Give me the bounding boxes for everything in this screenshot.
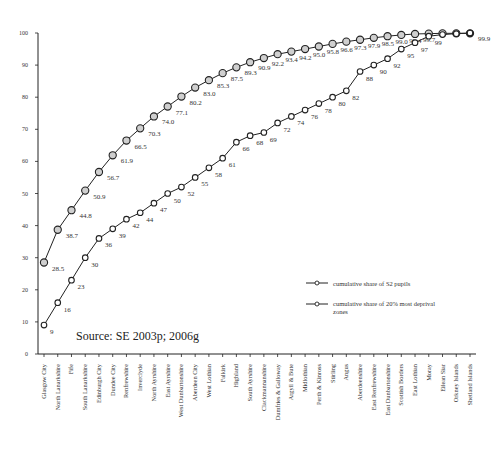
data-point-marker-icon <box>82 255 88 261</box>
x-category-label: Midlothian <box>301 363 308 392</box>
data-label: 68 <box>256 139 264 147</box>
data-label: 96.6 <box>341 46 354 54</box>
data-point-marker-icon <box>315 43 322 50</box>
data-point-marker-icon <box>109 152 116 159</box>
data-label: 56.7 <box>107 174 120 182</box>
data-point-marker-icon <box>123 137 130 144</box>
x-category-label: Renfrewshire <box>122 364 129 398</box>
data-point-marker-icon <box>178 93 185 100</box>
axes: 0102030405060708090100Glasgow CityNorth … <box>19 30 476 420</box>
data-point-marker-icon <box>41 322 47 328</box>
data-point-marker-icon <box>164 103 171 110</box>
legend-marker-icon <box>315 281 319 285</box>
x-category-label: Shetland Islands <box>466 363 473 405</box>
data-label: 72 <box>284 126 292 134</box>
data-label: 74 <box>297 119 305 127</box>
data-point-marker-icon <box>54 226 61 233</box>
data-point-marker-icon <box>440 32 446 38</box>
data-label: 58 <box>215 171 223 179</box>
data-label: 90.9 <box>258 64 271 72</box>
x-category-label: Aberdeen City <box>191 363 198 401</box>
data-point-marker-icon <box>357 69 363 75</box>
y-tick-label: 60 <box>22 158 28 164</box>
legend-label-deprived: cumulative share of 20% most deprival <box>333 300 435 307</box>
data-label: 66 <box>242 145 250 153</box>
legend-label-s2: cumulative share of S2 pupils <box>333 280 411 287</box>
data-label: 50.9 <box>93 193 106 201</box>
y-tick-label: 90 <box>22 62 28 68</box>
data-point-marker-icon <box>192 84 199 91</box>
data-label: 83.0 <box>203 90 216 98</box>
data-point-marker-icon <box>234 139 240 145</box>
legend-marker-icon <box>315 302 319 306</box>
data-point-marker-icon <box>288 48 295 55</box>
data-point-marker-icon <box>95 168 102 175</box>
x-category-label: Inverclyde <box>136 364 143 391</box>
data-point-marker-icon <box>220 155 226 161</box>
data-label: 69 <box>270 136 278 144</box>
data-label: 92 <box>394 62 402 70</box>
data-point-marker-icon <box>110 226 116 232</box>
data-label: 85.3 <box>217 82 230 90</box>
data-label: 94.2 <box>299 54 312 62</box>
data-point-marker-icon <box>275 120 281 126</box>
x-category-label: Perth & Kinross <box>315 363 322 404</box>
data-point-marker-icon <box>69 277 75 283</box>
data-point-marker-icon <box>411 30 418 37</box>
data-point-marker-icon <box>247 133 253 139</box>
x-category-label: West Dunbartonshire <box>177 364 184 417</box>
data-label: 52 <box>187 190 195 198</box>
x-category-label: Stirling <box>329 363 336 383</box>
data-point-marker-icon <box>316 101 322 107</box>
data-label: 93.4 <box>286 56 299 64</box>
series-line-s2-pupils <box>44 33 470 262</box>
data-point-marker-icon <box>398 46 404 52</box>
y-tick-label: 50 <box>22 191 28 197</box>
data-label: 78 <box>325 107 333 115</box>
data-label: 88 <box>366 75 374 83</box>
data-point-marker-icon <box>384 33 391 40</box>
data-label: 76 <box>311 113 319 121</box>
y-tick-label: 0 <box>25 351 28 357</box>
data-point-marker-icon <box>260 54 267 61</box>
data-point-marker-icon <box>68 207 75 214</box>
x-category-label: Orkney Islands <box>452 363 459 402</box>
x-category-label: Moray <box>425 363 432 381</box>
x-category-label: Clackmannanshire <box>260 364 267 411</box>
x-category-label: Highland <box>232 363 239 387</box>
y-tick-label: 100 <box>19 30 28 36</box>
data-label: 89.3 <box>244 69 257 77</box>
data-point-marker-icon <box>385 56 391 62</box>
data-point-marker-icon <box>205 77 212 84</box>
data-label: 42 <box>132 222 140 230</box>
data-label: 90 <box>380 68 388 76</box>
data-label: 97.9 <box>368 42 381 50</box>
data-point-marker-icon <box>412 40 418 46</box>
data-point-marker-icon <box>371 62 377 68</box>
data-label: 82 <box>352 94 360 102</box>
data-label: 44.8 <box>79 212 92 220</box>
data-label: 95.8 <box>327 48 340 56</box>
data-label: 39 <box>119 232 127 240</box>
data-point-marker-icon <box>426 33 432 39</box>
data-label: 16 <box>64 306 72 314</box>
x-category-label: East Ayrshire <box>164 364 171 398</box>
x-category-label: Eilean Siar <box>439 363 446 392</box>
data-label: 99 <box>435 39 443 47</box>
data-point-marker-icon <box>289 114 295 120</box>
data-label: 28.5 <box>52 265 65 273</box>
data-label: 92.2 <box>272 60 285 68</box>
data-label: 55 <box>201 180 209 188</box>
data-point-marker-icon <box>192 175 198 181</box>
data-point-marker-icon <box>302 107 308 113</box>
y-tick-label: 70 <box>22 126 28 132</box>
data-point-marker-icon <box>330 94 336 100</box>
data-point-marker-icon <box>344 88 350 94</box>
data-point-marker-icon <box>370 34 377 41</box>
data-point-marker-icon <box>453 31 459 37</box>
data-point-marker-icon <box>165 191 171 197</box>
data-point-marker-icon <box>55 300 61 306</box>
data-label: 99.9 <box>478 35 491 43</box>
data-point-marker-icon <box>150 113 157 120</box>
data-point-marker-icon <box>40 259 47 266</box>
